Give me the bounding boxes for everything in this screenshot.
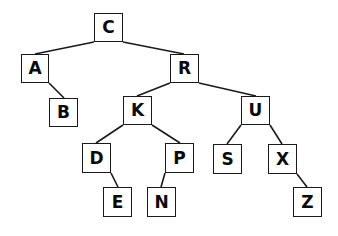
- edge-a-b: [49, 83, 64, 98]
- tree-node-b: B: [49, 98, 78, 127]
- node-label: E: [112, 194, 124, 211]
- node-label: P: [173, 150, 185, 167]
- tree-node-a: A: [21, 54, 49, 83]
- node-label: A: [28, 60, 41, 77]
- tree-node-n: N: [147, 187, 176, 217]
- tree-node-d: D: [82, 143, 111, 173]
- edge-u-x: [270, 125, 282, 144]
- node-label: S: [221, 151, 233, 168]
- tree-diagram: CARBKUDPSXENZ: [0, 0, 338, 236]
- tree-node-s: S: [213, 144, 242, 174]
- node-label: D: [89, 150, 103, 167]
- tree-node-c: C: [94, 13, 123, 42]
- edge-u-s: [227, 125, 241, 144]
- tree-node-r: R: [170, 54, 199, 83]
- edge-r-k: [137, 83, 170, 96]
- node-label: N: [154, 194, 168, 211]
- tree-node-x: X: [268, 144, 297, 174]
- tree-node-z: Z: [293, 187, 322, 217]
- tree-node-e: E: [103, 187, 132, 217]
- node-label: X: [276, 151, 289, 168]
- edge-p-n: [161, 173, 165, 187]
- tree-node-u: U: [241, 96, 270, 125]
- node-label: C: [102, 19, 114, 36]
- edge-c-a: [35, 42, 94, 54]
- edge-d-e: [111, 173, 118, 187]
- edge-c-r: [123, 42, 184, 54]
- edge-k-p: [152, 125, 180, 143]
- tree-node-p: P: [165, 143, 194, 173]
- edge-k-d: [96, 125, 123, 143]
- node-label: K: [131, 102, 144, 119]
- node-label: R: [178, 60, 191, 77]
- tree-node-k: K: [123, 96, 152, 125]
- edge-x-z: [297, 174, 307, 187]
- node-label: B: [57, 104, 70, 121]
- node-label: Z: [301, 194, 313, 211]
- node-label: U: [249, 102, 263, 119]
- edge-r-u: [199, 83, 256, 96]
